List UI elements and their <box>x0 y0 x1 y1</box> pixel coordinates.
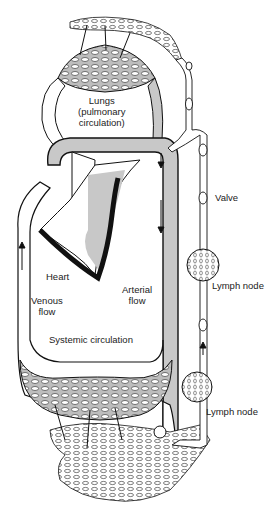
pulmonary-vein <box>42 78 68 148</box>
lungs-label-line1: Lungs <box>78 95 126 106</box>
arterial-flow-line1: Arterial <box>122 284 152 295</box>
valve-shape <box>186 62 192 70</box>
pulmonary-artery <box>148 78 163 140</box>
circulation-diagram <box>0 0 275 512</box>
arterial-flow-label: Arterial flow <box>122 284 152 306</box>
lymph-node-lower-label: Lymph node <box>206 406 258 417</box>
lymph-node-upper <box>187 249 219 281</box>
systemic-circulation-label: Systemic circulation <box>49 334 133 345</box>
valve-shape <box>199 192 207 204</box>
lymph-valve-bottom <box>154 426 166 438</box>
tissue-lymph-network <box>50 423 210 501</box>
valve-shape <box>199 144 207 156</box>
lymph-node-lower <box>182 372 212 402</box>
lungs-label: Lungs (pulmonary circulation) <box>78 95 126 128</box>
venous-flow-line2: flow <box>31 306 63 317</box>
valve-shape <box>186 98 193 110</box>
arterial-flow-line2: flow <box>122 295 152 306</box>
lungs-label-line3: circulation) <box>78 117 126 128</box>
valve-shape <box>199 319 207 331</box>
lungs-label-line2: (pulmonary <box>78 106 126 117</box>
heart <box>40 152 140 278</box>
lung-capillary-bed <box>58 45 155 92</box>
valve-label: Valve <box>215 192 238 203</box>
venous-flow-label: Venous flow <box>31 295 63 317</box>
heart-label: Heart <box>46 271 69 282</box>
venous-flow-line1: Venous <box>31 295 63 306</box>
lymph-node-upper-label: Lymph node <box>212 280 264 291</box>
